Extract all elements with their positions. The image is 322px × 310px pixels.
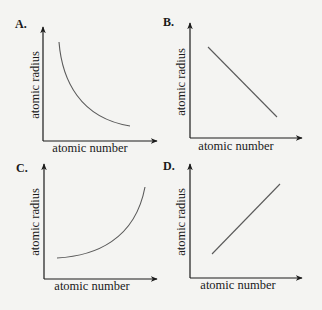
panel-c: C. atomic radius atomic number bbox=[16, 161, 157, 293]
curve-b bbox=[208, 47, 277, 117]
panel-label-d: D. bbox=[163, 159, 175, 173]
x-label-c: atomic number bbox=[54, 279, 130, 293]
panel-b: B. atomic radius atomic number bbox=[163, 15, 302, 153]
x-label-a: atomic number bbox=[52, 141, 128, 155]
curve-d bbox=[212, 184, 280, 254]
y-label-d: atomic radius bbox=[174, 188, 188, 256]
panel-label-c: C. bbox=[16, 161, 28, 175]
x-label-d: atomic number bbox=[200, 278, 276, 292]
chart-grid: A. atomic radius atomic number B. atomic… bbox=[0, 0, 322, 310]
y-label-b: atomic radius bbox=[174, 48, 188, 116]
x-label-b: atomic number bbox=[198, 139, 274, 153]
y-label-a: atomic radius bbox=[28, 51, 42, 119]
panel-d: D. atomic radius atomic number bbox=[163, 159, 302, 292]
panel-a: A. atomic radius atomic number bbox=[15, 17, 157, 155]
panel-label-b: B. bbox=[163, 15, 174, 29]
curve-a bbox=[59, 42, 130, 126]
panel-label-a: A. bbox=[15, 17, 27, 31]
y-label-c: atomic radius bbox=[28, 188, 42, 256]
curve-c bbox=[57, 187, 145, 258]
